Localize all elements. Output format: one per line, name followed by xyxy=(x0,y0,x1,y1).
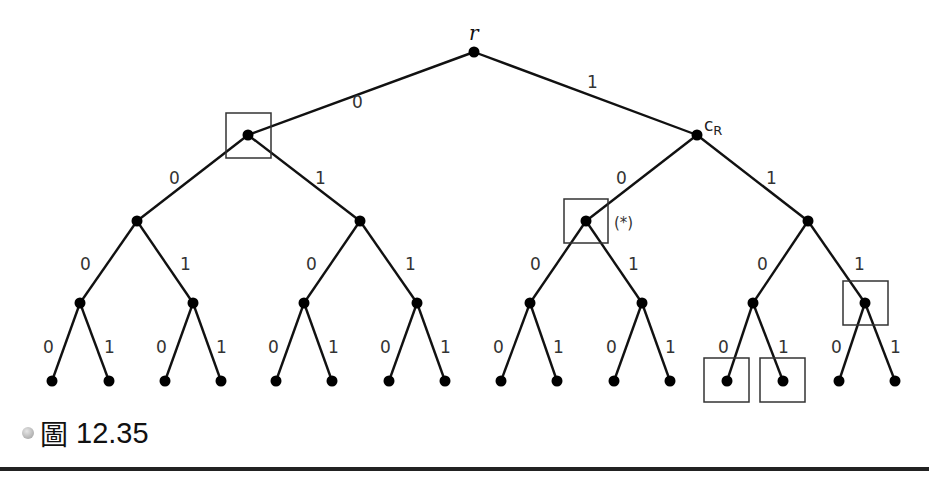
svg-text:0: 0 xyxy=(268,337,279,357)
node-starred xyxy=(581,216,592,227)
svg-text:0: 0 xyxy=(530,254,541,274)
svg-text:0: 0 xyxy=(493,337,504,357)
node-root xyxy=(469,47,480,58)
svg-text:1: 1 xyxy=(766,168,777,188)
svg-text:1: 1 xyxy=(440,337,451,357)
svg-text:1: 1 xyxy=(628,254,639,274)
svg-text:0: 0 xyxy=(757,254,768,274)
svg-text:1: 1 xyxy=(553,337,564,357)
tree-nodes xyxy=(47,47,901,387)
bottom-divider xyxy=(0,467,929,471)
svg-text:0: 0 xyxy=(43,337,54,357)
svg-text:0: 0 xyxy=(831,337,842,357)
svg-text:1: 1 xyxy=(328,337,339,357)
svg-text:0: 0 xyxy=(616,168,627,188)
node-cr xyxy=(692,130,703,141)
svg-text:0: 0 xyxy=(380,337,391,357)
binary-tree-diagram: r cR (*) 0 1 0 1 0 1 0 1 0 1 0 1 0 1 0 1… xyxy=(0,0,929,477)
svg-text:0: 0 xyxy=(718,337,729,357)
svg-text:0: 0 xyxy=(306,254,317,274)
svg-text:1: 1 xyxy=(216,337,227,357)
edge-labels: 0 1 0 1 0 1 0 1 0 1 0 1 0 1 0 1 0 1 0 1 … xyxy=(43,72,901,357)
highlight-boxes xyxy=(226,113,888,402)
cr-label: cR xyxy=(704,115,722,138)
node-0 xyxy=(243,130,254,141)
figure-mark: 圖 xyxy=(40,413,68,453)
svg-text:1: 1 xyxy=(778,337,789,357)
starred-node-label: (*) xyxy=(614,214,633,232)
svg-text:1: 1 xyxy=(854,254,865,274)
svg-text:0: 0 xyxy=(352,92,363,112)
bullet-icon xyxy=(22,427,34,439)
root-label: r xyxy=(469,21,480,45)
figure-caption: 圖 12.35 xyxy=(22,418,149,448)
svg-text:1: 1 xyxy=(180,254,191,274)
svg-text:1: 1 xyxy=(587,72,598,92)
figure-number: 12.35 xyxy=(76,417,149,450)
svg-text:0: 0 xyxy=(169,168,180,188)
svg-text:1: 1 xyxy=(405,254,416,274)
svg-text:0: 0 xyxy=(606,337,617,357)
tree-edges xyxy=(52,52,895,381)
svg-text:1: 1 xyxy=(665,337,676,357)
svg-text:1: 1 xyxy=(315,168,326,188)
svg-text:0: 0 xyxy=(156,337,167,357)
svg-text:0: 0 xyxy=(80,254,91,274)
node-labels: r cR (*) xyxy=(469,21,722,232)
svg-text:1: 1 xyxy=(890,337,901,357)
svg-text:1: 1 xyxy=(104,337,115,357)
